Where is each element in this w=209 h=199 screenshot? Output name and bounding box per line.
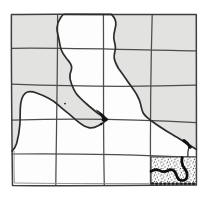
sketch-map <box>0 0 209 199</box>
tip-ink-dot <box>100 123 102 125</box>
arc-ink-tick <box>64 103 66 105</box>
sketch-map-figure <box>0 0 209 199</box>
